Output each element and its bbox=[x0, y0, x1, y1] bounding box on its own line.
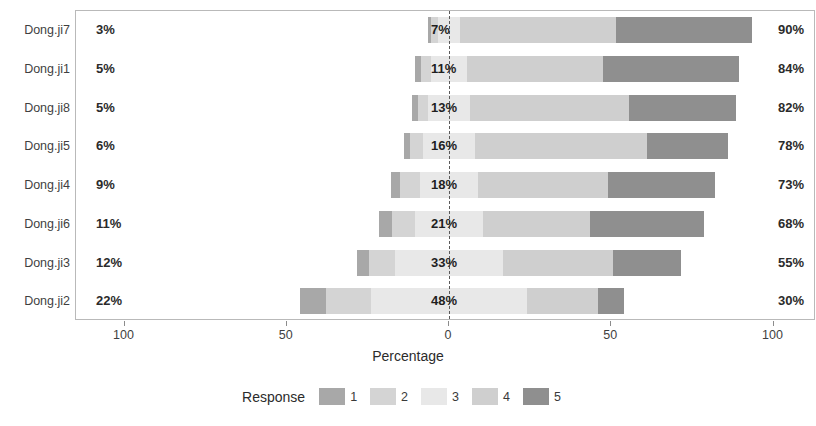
bar-segment-response-5[interactable] bbox=[613, 250, 681, 276]
bar-row: 48% bbox=[76, 282, 814, 320]
agree-percentage-label: 78% bbox=[778, 139, 804, 152]
y-axis-label-dong-ji5: Dong.ji5 bbox=[0, 140, 70, 153]
bar-row: 13% bbox=[76, 89, 814, 127]
disagree-percentage-label: 6% bbox=[96, 139, 115, 152]
neutral-percentage-label: 7% bbox=[431, 23, 450, 36]
agree-percentage-label: 82% bbox=[778, 101, 804, 114]
bar-segment-response-4[interactable] bbox=[503, 250, 613, 276]
disagree-percentage-label: 22% bbox=[96, 294, 122, 307]
y-axis-label-dong-ji4: Dong.ji4 bbox=[0, 179, 70, 192]
bar-segment-response-4[interactable] bbox=[467, 56, 603, 82]
bar-segment-response-4[interactable] bbox=[470, 95, 629, 121]
x-axis-tick bbox=[773, 321, 774, 326]
x-axis-tick bbox=[448, 321, 449, 326]
bar-segment-response-5[interactable] bbox=[616, 17, 752, 43]
bar-row: 21% bbox=[76, 205, 814, 243]
disagree-percentage-label: 12% bbox=[96, 256, 122, 269]
legend-swatch-3 bbox=[421, 388, 447, 405]
y-axis-label-dong-ji6: Dong.ji6 bbox=[0, 218, 70, 231]
stacked-bar[interactable] bbox=[357, 250, 682, 276]
neutral-percentage-label: 11% bbox=[431, 62, 456, 75]
bar-segment-response-2[interactable] bbox=[369, 250, 395, 276]
plot-panel: 7%11%13%16%18%21%33%48% bbox=[75, 10, 815, 320]
legend: Response 12345 bbox=[0, 388, 816, 405]
legend-swatch-2 bbox=[370, 388, 396, 405]
bar-row: 16% bbox=[76, 127, 814, 165]
disagree-percentage-label: 5% bbox=[96, 101, 115, 114]
stacked-bar[interactable] bbox=[428, 17, 753, 43]
legend-item-2[interactable]: 2 bbox=[370, 388, 417, 405]
legend-swatch-1 bbox=[319, 388, 345, 405]
x-axis-tick-label: 0 bbox=[445, 328, 452, 342]
stacked-bar[interactable] bbox=[412, 95, 737, 121]
x-axis-tick-label: 100 bbox=[762, 328, 783, 342]
bar-segment-response-4[interactable] bbox=[478, 172, 608, 198]
legend-label-1: 1 bbox=[350, 390, 357, 404]
bar-segment-response-2[interactable] bbox=[418, 95, 428, 121]
bar-segment-response-5[interactable] bbox=[608, 172, 715, 198]
bar-segment-response-4[interactable] bbox=[475, 133, 647, 159]
x-axis-tick-label: 50 bbox=[603, 328, 617, 342]
agree-percentage-label: 84% bbox=[778, 62, 804, 75]
x-axis-tick-label: 100 bbox=[113, 328, 134, 342]
neutral-percentage-label: 18% bbox=[431, 178, 457, 191]
x-axis-tick-label: 50 bbox=[279, 328, 293, 342]
legend-label-5: 5 bbox=[554, 390, 561, 404]
legend-label-4: 4 bbox=[503, 390, 510, 404]
disagree-percentage-label: 11% bbox=[96, 217, 121, 230]
y-axis-label-dong-ji7: Dong.ji7 bbox=[0, 24, 70, 37]
y-axis-label-dong-ji1: Dong.ji1 bbox=[0, 63, 70, 76]
disagree-percentage-label: 5% bbox=[96, 62, 115, 75]
bar-segment-response-4[interactable] bbox=[527, 288, 598, 314]
legend-label-2: 2 bbox=[401, 390, 408, 404]
y-axis-label-dong-ji2: Dong.ji2 bbox=[0, 295, 70, 308]
agree-percentage-label: 30% bbox=[778, 294, 804, 307]
bar-segment-response-2[interactable] bbox=[392, 211, 415, 237]
legend-item-4[interactable]: 4 bbox=[472, 388, 519, 405]
likert-diverging-bar-chart: 7%11%13%16%18%21%33%48% Dong.ji7Dong.ji1… bbox=[0, 0, 816, 426]
bar-segment-response-5[interactable] bbox=[647, 133, 728, 159]
legend-title: Response bbox=[242, 389, 305, 405]
bar-segment-response-5[interactable] bbox=[590, 211, 704, 237]
bar-segment-response-5[interactable] bbox=[629, 95, 736, 121]
y-axis-label-dong-ji8: Dong.ji8 bbox=[0, 102, 70, 115]
stacked-bar[interactable] bbox=[300, 288, 625, 314]
agree-percentage-label: 90% bbox=[778, 23, 804, 36]
bar-segment-response-2[interactable] bbox=[400, 172, 419, 198]
neutral-percentage-label: 21% bbox=[431, 217, 457, 230]
bar-segment-response-1[interactable] bbox=[300, 288, 326, 314]
legend-items: 12345 bbox=[319, 388, 574, 405]
bar-segment-response-5[interactable] bbox=[598, 288, 624, 314]
stacked-bar[interactable] bbox=[379, 211, 704, 237]
zero-reference-line bbox=[449, 11, 450, 319]
bar-segment-response-1[interactable] bbox=[357, 250, 370, 276]
x-axis-tick bbox=[286, 321, 287, 326]
bar-row: 7% bbox=[76, 11, 814, 49]
bar-segment-response-2[interactable] bbox=[410, 133, 423, 159]
neutral-percentage-label: 48% bbox=[431, 294, 457, 307]
bar-segment-response-1[interactable] bbox=[391, 172, 401, 198]
legend-swatch-5 bbox=[523, 388, 549, 405]
agree-percentage-label: 73% bbox=[778, 178, 804, 191]
stacked-bar[interactable] bbox=[415, 56, 740, 82]
bar-segment-response-2[interactable] bbox=[326, 288, 371, 314]
x-axis-title: Percentage bbox=[0, 348, 816, 364]
bar-segment-response-5[interactable] bbox=[603, 56, 739, 82]
neutral-percentage-label: 33% bbox=[431, 256, 457, 269]
x-axis-tick bbox=[610, 321, 611, 326]
bar-segment-response-4[interactable] bbox=[483, 211, 590, 237]
bar-row: 11% bbox=[76, 50, 814, 88]
legend-label-3: 3 bbox=[452, 390, 459, 404]
legend-item-1[interactable]: 1 bbox=[319, 388, 366, 405]
bar-segment-response-1[interactable] bbox=[379, 211, 392, 237]
legend-item-5[interactable]: 5 bbox=[523, 388, 570, 405]
bar-row: 33% bbox=[76, 244, 814, 282]
x-axis-tick bbox=[124, 321, 125, 326]
bar-segment-response-4[interactable] bbox=[460, 17, 616, 43]
bar-rows: 7%11%13%16%18%21%33%48% bbox=[76, 11, 814, 319]
agree-percentage-label: 68% bbox=[778, 217, 804, 230]
disagree-percentage-label: 9% bbox=[96, 178, 115, 191]
bar-segment-response-2[interactable] bbox=[421, 56, 431, 82]
y-axis-label-dong-ji3: Dong.ji3 bbox=[0, 257, 70, 270]
legend-item-3[interactable]: 3 bbox=[421, 388, 468, 405]
